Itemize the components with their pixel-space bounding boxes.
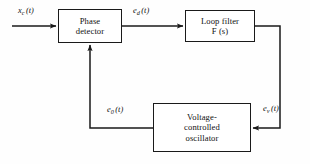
signal-ev-arg: (t) [271, 104, 279, 113]
block-voltage-controlled-oscillator[interactable]: Voltage- controlled oscillator [153, 103, 251, 152]
signal-label-e0: e0(t) [107, 105, 123, 114]
signal-ev-sub: v [267, 107, 270, 114]
block-loop-filter[interactable]: Loop filter F (s) [185, 10, 255, 42]
signal-label-ed: ed(t) [133, 6, 149, 15]
signal-e0-arg: (t) [115, 105, 123, 114]
block-diagram-canvas: Phase detector Loop filter F (s) Voltage… [0, 0, 310, 164]
signal-ed-sub: d [137, 9, 140, 16]
signal-ed-arg: (t) [141, 6, 149, 15]
block-phase-detector[interactable]: Phase detector [58, 9, 122, 43]
block-phase-detector-label: Phase detector [76, 16, 104, 36]
wire-vco-feedback-to-phase-detector [90, 45, 153, 128]
block-loop-filter-label: Loop filter F (s) [201, 16, 239, 36]
signal-label-xc: xc(t) [18, 6, 34, 15]
signal-e0-sub: 0 [111, 108, 114, 115]
block-vco-label: Voltage- controlled oscillator [184, 112, 220, 142]
signal-xc-arg: (t) [26, 6, 34, 15]
signal-label-ev: ev(t) [263, 104, 279, 113]
signal-xc-sub: c [22, 9, 25, 16]
